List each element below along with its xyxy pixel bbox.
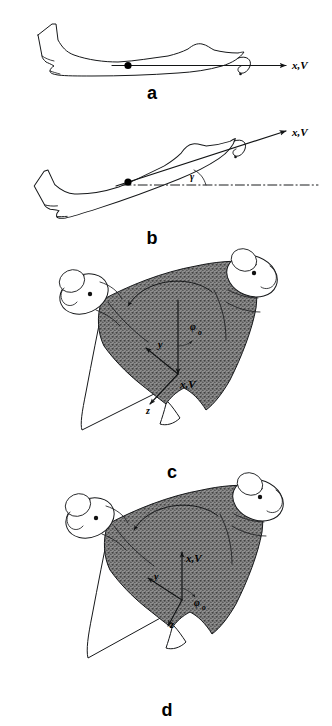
center-of-gravity-dot-a — [124, 62, 131, 69]
flight-path-angle-arc-b — [194, 170, 206, 185]
roll-rotation-arrow-a — [238, 57, 250, 75]
velocity-axis-label-a: x,V — [291, 59, 309, 71]
roll-rotation-arrow-b — [233, 140, 246, 158]
bank-angle-subscript-d: o — [202, 603, 206, 612]
ventral-fin-d — [166, 626, 186, 649]
panel-letter-d: d — [162, 700, 173, 720]
y-axis-label-d: y — [153, 571, 159, 582]
technical-figure: x,V a x,V γ b — [0, 0, 332, 726]
panel-c: y x,V z φ o c — [53, 245, 283, 482]
y-axis-label-c: y — [157, 339, 163, 350]
aircraft-side-view-climb — [31, 112, 243, 225]
panel-letter-c: c — [167, 462, 177, 482]
z-axis-label-d: z — [169, 619, 174, 630]
z-axis-label-c: z — [145, 405, 150, 416]
bank-angle-subscript-c: o — [198, 328, 202, 337]
panel-letter-a: a — [147, 83, 158, 103]
panel-b: x,V γ b — [31, 112, 318, 248]
figure-root: x,V a x,V γ b — [0, 0, 332, 726]
bank-angle-label-c: φ — [190, 321, 196, 332]
aircraft-side-view-level — [38, 24, 244, 76]
velocity-axis-b — [116, 131, 286, 186]
bank-angle-label-d: φ — [194, 597, 200, 608]
x-velocity-axis-label-c: x,V — [179, 378, 197, 390]
panel-letter-b: b — [147, 228, 158, 248]
panel-d: y x,V z φ o d — [59, 469, 289, 720]
ventral-fin-c — [160, 402, 180, 425]
velocity-axis-label-b: x,V — [291, 126, 309, 138]
panel-a: x,V a — [38, 24, 309, 103]
center-of-gravity-dot-b — [124, 178, 131, 185]
x-velocity-axis-label-d: x,V — [185, 552, 203, 564]
